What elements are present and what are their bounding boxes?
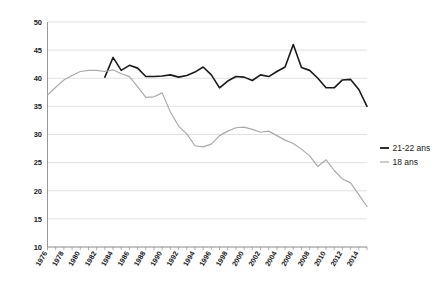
x-tick-label-2014: 2014 (345, 250, 361, 268)
x-tick-label-1992: 1992 (165, 250, 181, 268)
y-tick-label-40: 40 (34, 74, 42, 83)
x-tick-label-1978: 1978 (50, 250, 66, 268)
x-tick-label-1976: 1976 (33, 250, 49, 268)
y-tick-label-15: 15 (34, 215, 42, 224)
y-axis-tick-labels: 101520253035404550 (34, 18, 42, 252)
x-tick-label-1996: 1996 (197, 250, 213, 268)
x-tick-label-2010: 2010 (312, 250, 328, 268)
x-tick-label-1982: 1982 (83, 250, 99, 268)
legend-label-21-22-ans: 21-22 ans (393, 143, 431, 153)
line-chart: 101520253035404550 197619781980198219841… (0, 0, 448, 298)
x-tick-label-1984: 1984 (99, 250, 115, 268)
x-tick-label-1986: 1986 (115, 250, 131, 268)
chart-legend: 21-22 ans18 ans (380, 143, 430, 167)
data-series (48, 45, 368, 207)
chart-container: 101520253035404550 197619781980198219841… (0, 0, 448, 298)
x-tick-label-1990: 1990 (148, 250, 164, 268)
y-tick-label-30: 30 (34, 130, 42, 139)
y-tick-label-25: 25 (34, 158, 42, 167)
x-tick-label-1980: 1980 (66, 250, 82, 268)
gridlines (48, 22, 368, 247)
y-tick-label-45: 45 (34, 46, 42, 55)
x-tick-label-2004: 2004 (263, 250, 279, 268)
x-axis-tick-labels: 1976197819801982198419861988199019921994… (33, 250, 360, 268)
y-tick-label-50: 50 (34, 18, 42, 27)
series-line-18-ans (48, 70, 368, 207)
x-tick-label-2012: 2012 (328, 250, 344, 268)
y-tick-label-35: 35 (34, 102, 42, 111)
x-tick-label-2008: 2008 (296, 250, 312, 268)
y-tick-label-20: 20 (34, 187, 42, 196)
series-line-21-22-ans (105, 45, 367, 107)
x-tick-label-2006: 2006 (279, 250, 295, 268)
x-tick-label-1988: 1988 (132, 250, 148, 268)
x-tick-label-2000: 2000 (230, 250, 246, 268)
x-tick-label-2002: 2002 (246, 250, 262, 268)
legend-label-18-ans: 18 ans (393, 157, 419, 167)
x-tick-label-1994: 1994 (181, 250, 197, 268)
x-tick-label-1998: 1998 (214, 250, 230, 268)
